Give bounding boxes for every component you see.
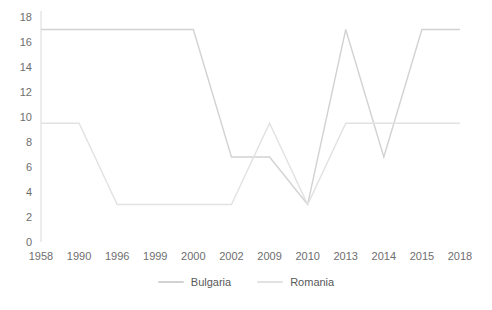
series-line-bulgaria (41, 30, 460, 205)
legend-swatch-romania (257, 281, 283, 283)
y-axis-tick-label: 8 (26, 136, 32, 148)
series-line-romania (41, 123, 460, 204)
legend-item-bulgaria[interactable]: Bulgaria (158, 276, 231, 288)
y-axis-tick-label: 18 (20, 11, 32, 23)
y-axis-tick-label: 0 (26, 236, 32, 248)
legend-label-bulgaria: Bulgaria (191, 276, 231, 288)
legend-label-romania: Romania (290, 276, 334, 288)
x-axis-tick-label: 1958 (29, 250, 53, 262)
legend-swatch-bulgaria (158, 281, 184, 283)
chart-legend: BulgariaRomania (0, 272, 492, 292)
y-axis-tick-label: 2 (26, 211, 32, 223)
x-axis-tick-label: 2002 (219, 250, 243, 262)
x-axis-tick-label: 1999 (143, 250, 167, 262)
y-axis-tick-label: 12 (20, 86, 32, 98)
x-axis-tick-label: 2009 (257, 250, 281, 262)
x-axis-tick-label: 1996 (105, 250, 129, 262)
x-axis-tick-label: 2014 (372, 250, 396, 262)
x-axis-tick-label: 2013 (333, 250, 357, 262)
chart-canvas: 024681012141618 195819901996199920002002… (0, 0, 492, 270)
x-axis-tick-labels: 1958199019961999200020022009201020132014… (29, 250, 472, 262)
x-axis-tick-label: 2015 (410, 250, 434, 262)
y-axis-tick-label: 16 (20, 36, 32, 48)
y-axis-tick-label: 6 (26, 161, 32, 173)
x-axis-tick-label: 1990 (67, 250, 91, 262)
y-axis-tick-labels: 024681012141618 (20, 11, 32, 248)
legend-item-romania[interactable]: Romania (257, 276, 334, 288)
series-lines (41, 30, 460, 205)
caption-strip (0, 298, 492, 310)
x-axis-tick-label: 2000 (181, 250, 205, 262)
line-chart: 024681012141618 195819901996199920002002… (0, 0, 492, 310)
y-axis-tick-label: 14 (20, 61, 32, 73)
y-axis-tick-label: 4 (26, 186, 32, 198)
plot-area: 024681012141618 195819901996199920002002… (0, 0, 492, 270)
x-axis-tick-label: 2010 (295, 250, 319, 262)
y-axis-tick-label: 10 (20, 111, 32, 123)
x-axis-tick-label: 2018 (448, 250, 472, 262)
